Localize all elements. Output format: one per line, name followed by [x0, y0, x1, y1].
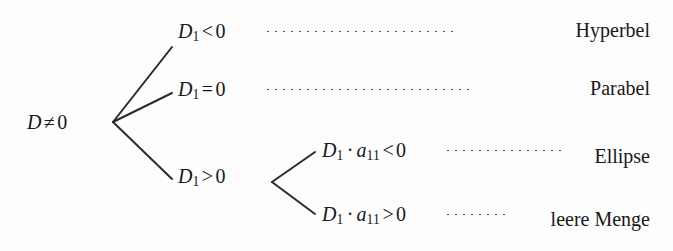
branch-root-to-d1-eq-0	[113, 93, 172, 122]
leaf-label-parabel: Parabel	[350, 78, 650, 98]
branch-d1gt0-to-d1a11-lt-0	[272, 152, 315, 182]
node-d1-equal-zero: D1=0	[178, 79, 226, 102]
node-d1-greater-than-zero: D1>0	[178, 166, 226, 189]
branch-root-to-d1-gt-0	[113, 122, 172, 179]
leaf-label-hyperbel: Hyperbel	[350, 20, 650, 40]
branch-root-to-d1-lt-0	[113, 47, 172, 122]
root-node-d-not-equal-zero: D≠0	[27, 112, 67, 132]
leaf-label-ellipse: Ellipse	[350, 146, 650, 166]
leaf-label-leere-menge: leere Menge	[350, 209, 650, 229]
node-d1-less-than-zero: D1<0	[178, 21, 226, 44]
branch-d1gt0-to-d1a11-gt-0	[272, 182, 315, 214]
conic-classification-diagram: D≠0 D1<0 D1=0 D1>0 D1·a11<0 D1·a11>0 Hyp…	[0, 0, 673, 251]
